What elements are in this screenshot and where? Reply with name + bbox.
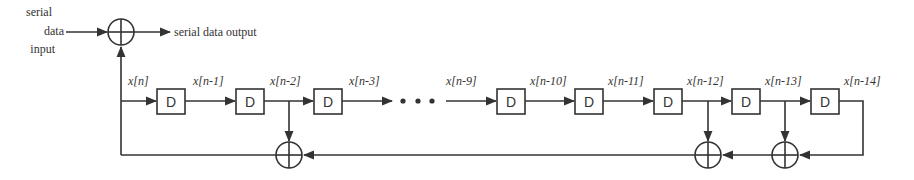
svg-text:x[n-13]: x[n-13] [764,74,802,88]
output-xor-icon [108,19,134,45]
svg-text:serial: serial [26,5,53,19]
xor-x13-icon [772,142,798,168]
svg-text:x[n-10]: x[n-10] [529,74,567,88]
tap-labels: x[n] x[n-1] x[n-2] x[n-3] x[n-9] x[n-10]… [127,74,881,88]
svg-text:D: D [323,94,333,110]
svg-text:D: D [584,94,594,110]
delay-2: D [236,89,264,114]
ellipsis [400,98,434,103]
input-label: serial data input [26,5,65,56]
svg-text:input: input [30,42,55,56]
xor-x2-icon [276,142,302,168]
svg-text:x[n-11]: x[n-11] [607,74,644,88]
svg-text:x[n-12]: x[n-12] [686,74,724,88]
svg-text:D: D [663,94,673,110]
delay-5: D [575,89,603,114]
delay-6: D [654,89,682,114]
svg-text:D: D [245,94,255,110]
svg-text:x[n-2]: x[n-2] [269,74,301,88]
delay-8: D [811,89,839,114]
lfsr-diagram: serial data input serial data output D D… [0,0,914,180]
svg-text:data: data [44,24,65,38]
svg-text:x[n-1]: x[n-1] [192,74,224,88]
delay-3: D [314,89,342,114]
delay-7: D [732,89,760,114]
delay-4: D [497,89,525,114]
svg-text:x[n-14]: x[n-14] [843,74,881,88]
xor-x12-icon [695,142,721,168]
svg-text:D: D [166,94,176,110]
delay-1: D [157,89,185,114]
svg-text:D: D [820,94,830,110]
svg-text:x[n-9]: x[n-9] [445,74,477,88]
output-label: serial data output [174,25,257,39]
svg-text:D: D [506,94,516,110]
svg-text:x[n]: x[n] [127,74,149,88]
svg-text:D: D [741,94,751,110]
svg-text:x[n-3]: x[n-3] [348,74,380,88]
